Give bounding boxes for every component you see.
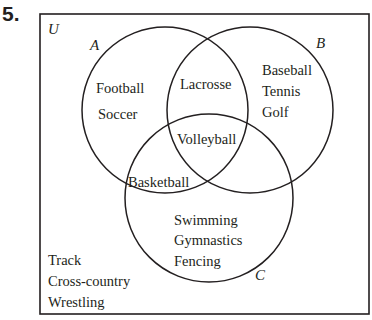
universe-rectangle	[40, 14, 369, 314]
region-b-only-item: Golf	[262, 104, 289, 120]
universe-label: U	[48, 21, 60, 37]
region-outside-item: Wrestling	[48, 294, 105, 310]
region-a-only-item: Soccer	[98, 106, 138, 122]
region-ab-item: Lacrosse	[180, 76, 232, 92]
set-c-label: C	[255, 267, 266, 283]
region-b-only-item: Baseball	[262, 62, 312, 78]
region-a-only-item: Football	[96, 80, 144, 96]
region-abc-item: Volleyball	[177, 131, 236, 147]
venn-diagram: U A B C Football Soccer Lacrosse Basebal…	[0, 0, 372, 320]
set-b-label: B	[316, 35, 325, 51]
region-c-only-item: Swimming	[174, 212, 238, 228]
region-outside-item: Track	[48, 252, 82, 268]
region-ac-item: Basketball	[128, 174, 189, 190]
set-b-circle	[167, 27, 333, 193]
region-outside-item: Cross-country	[48, 273, 131, 289]
region-c-only-item: Fencing	[174, 253, 221, 269]
set-a-label: A	[89, 37, 100, 53]
region-b-only-item: Tennis	[262, 83, 301, 99]
region-c-only-item: Gymnastics	[174, 232, 243, 248]
